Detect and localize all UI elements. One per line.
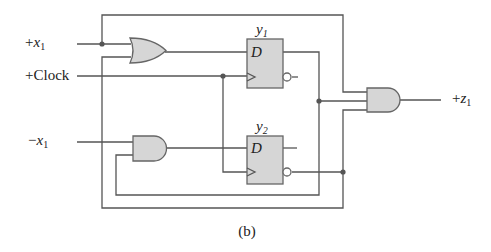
input-label-clock: +Clock [25, 67, 70, 83]
or-gate [130, 38, 166, 63]
ff1-name-label: y1 [254, 21, 268, 39]
figure-caption: (b) [238, 223, 256, 240]
input-label-x1-positive: +x1 [25, 34, 45, 52]
junction-x1 [99, 41, 104, 46]
wire-q2-bar-to-and2 [343, 110, 368, 172]
and-gate-2 [367, 88, 400, 112]
output-label-z1: +z1 [452, 90, 471, 108]
flip-flop-y1: D y1 [247, 21, 291, 88]
ff2-d-label: D [250, 140, 262, 156]
junction-q2-bar [340, 169, 345, 174]
circuit-diagram: D y1 D y2 +x1 +Clock −x1 +z1 (b) [0, 0, 491, 252]
inverted-output-bubble-icon [283, 168, 291, 176]
junction-q1 [316, 98, 321, 103]
junction-clock [220, 73, 225, 78]
flip-flop-y2: D y2 [247, 118, 291, 184]
inverted-output-bubble-icon [283, 73, 291, 81]
wire-clock-to-ff2 [223, 76, 247, 172]
ff1-d-label: D [250, 44, 262, 60]
and-gate-1 [133, 136, 167, 161]
ff2-name-label: y2 [254, 118, 268, 136]
input-label-x1-negative: −x1 [28, 132, 48, 150]
